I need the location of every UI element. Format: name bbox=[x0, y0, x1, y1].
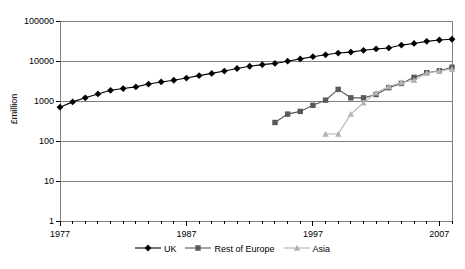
legend-label: Asia bbox=[313, 244, 331, 254]
legend-item-uk[interactable]: UK bbox=[135, 243, 177, 255]
series-uk bbox=[57, 36, 456, 111]
chart-container: £million 100000100001000100101 197719871… bbox=[0, 0, 465, 269]
diamond-marker-icon bbox=[135, 243, 161, 255]
legend-item-asia[interactable]: Asia bbox=[284, 243, 331, 255]
triangle-marker-icon bbox=[284, 243, 310, 255]
legend-label: Rest of Europe bbox=[214, 244, 274, 254]
plot-area bbox=[0, 0, 465, 269]
legend-item-rest-of-europe[interactable]: Rest of Europe bbox=[185, 243, 274, 255]
legend-label: UK bbox=[164, 244, 177, 254]
chart-legend: UKRest of EuropeAsia bbox=[0, 243, 465, 255]
square-marker-icon bbox=[185, 243, 211, 255]
